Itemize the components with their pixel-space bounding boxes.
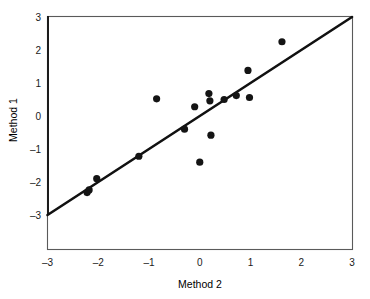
data-point: [93, 175, 100, 182]
data-point: [233, 92, 240, 99]
y-tick-label: 2: [35, 45, 41, 56]
scatter-plot-figure: –3–2–10123 –3–2–10123 Method 2 Method 1: [0, 0, 370, 299]
x-axis-title: Method 2: [178, 278, 222, 290]
y-tick-label: 1: [35, 78, 41, 89]
y-tick-label: –1: [30, 144, 42, 155]
data-point: [196, 159, 203, 166]
data-point: [135, 153, 142, 160]
data-point: [191, 103, 198, 110]
x-tick-label: 3: [349, 257, 355, 268]
x-tick-label: 2: [298, 257, 304, 268]
data-point: [153, 95, 160, 102]
data-point: [207, 132, 214, 139]
plot-canvas: –3–2–10123 –3–2–10123 Method 2 Method 1: [0, 0, 370, 299]
data-point: [244, 67, 251, 74]
data-point: [181, 126, 188, 133]
figure-background: [0, 0, 370, 299]
x-tick-label: –2: [93, 257, 105, 268]
data-point: [206, 97, 213, 104]
data-point: [246, 94, 253, 101]
y-tick-label: –3: [30, 210, 42, 221]
y-tick-label: 3: [35, 12, 41, 23]
data-point: [278, 38, 285, 45]
data-point: [86, 186, 93, 193]
data-point: [221, 96, 228, 103]
y-axis-title: Method 1: [7, 98, 19, 142]
data-point: [205, 90, 212, 97]
x-tick-label: 1: [248, 257, 254, 268]
x-tick-label: 0: [197, 257, 203, 268]
x-tick-label: –3: [42, 257, 54, 268]
y-tick-label: –2: [30, 177, 42, 188]
x-tick-label: –1: [143, 257, 155, 268]
y-tick-label: 0: [35, 111, 41, 122]
